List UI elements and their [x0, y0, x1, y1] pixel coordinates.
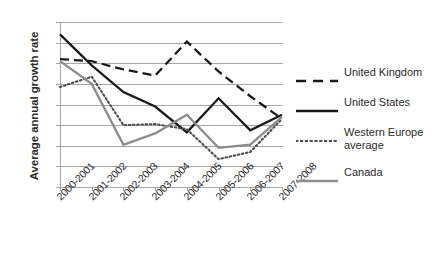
- series-line-canada: [60, 61, 282, 148]
- legend-label: Western Europe average: [344, 126, 434, 152]
- dashed-black-line-swatch: [296, 73, 338, 85]
- legend-label: United Kingdom: [344, 66, 434, 79]
- series-line-united-states: [60, 34, 282, 132]
- legend-item-united-states[interactable]: United States: [296, 96, 434, 126]
- legend-item-canada[interactable]: Canada: [296, 166, 434, 196]
- line-chart: Average annual growth rate 012345678 200…: [0, 0, 434, 255]
- dotted-gray-line-swatch: [296, 133, 338, 145]
- chart-legend: United KingdomUnited StatesWestern Europ…: [296, 66, 434, 196]
- legend-label: Canada: [344, 166, 434, 179]
- legend-item-united-kingdom[interactable]: United Kingdom: [296, 66, 434, 96]
- solid-gray-line-swatch: [296, 173, 338, 185]
- legend-label: United States: [344, 96, 434, 109]
- legend-item-western-europe-average[interactable]: Western Europe average: [296, 126, 434, 166]
- solid-black-line-swatch: [296, 103, 338, 115]
- y-axis-title: Average annual growth rate: [28, 21, 40, 191]
